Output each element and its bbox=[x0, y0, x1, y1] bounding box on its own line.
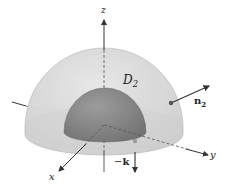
surface-label-sub: 2 bbox=[133, 79, 138, 89]
minus-k-label: −k bbox=[114, 157, 129, 167]
normal-label-sub: 2 bbox=[201, 100, 206, 109]
surface-label-D2: D2 bbox=[123, 74, 138, 88]
x-axis-label: x bbox=[49, 172, 55, 182]
k-label: k bbox=[122, 156, 129, 167]
normal-vector-label: n2 bbox=[194, 96, 206, 108]
y-axis-label: y bbox=[210, 150, 216, 160]
hemisphere-diagram: z y x D2 n2 −k bbox=[0, 0, 228, 190]
z-axis-label: z bbox=[101, 6, 106, 15]
y-axis bbox=[186, 149, 208, 155]
surface-label-main: D bbox=[123, 73, 133, 87]
